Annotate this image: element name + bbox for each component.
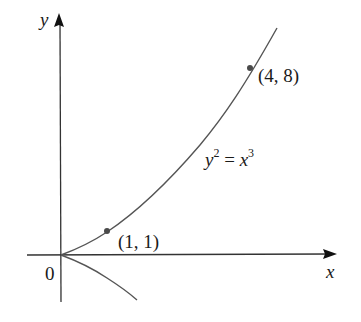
point-1-1 — [104, 228, 110, 234]
point-4-8-label: (4, 8) — [258, 66, 299, 85]
equation-label: y2 = x3 — [205, 150, 254, 169]
curve-upper-branch — [61, 28, 277, 255]
point-1-1-label: (1, 1) — [118, 232, 159, 251]
x-axis-arrow-icon — [323, 249, 337, 259]
x-axis — [27, 254, 330, 255]
x-axis-label: x — [326, 262, 334, 281]
eq-rhs: x — [240, 149, 248, 170]
eq-equals: = — [219, 149, 239, 170]
eq-rhs-exp: 3 — [248, 146, 254, 160]
eq-lhs-exp: 2 — [213, 146, 219, 160]
origin-label: 0 — [45, 264, 55, 283]
y-axis-label: y — [40, 10, 48, 29]
point-4-8 — [247, 65, 253, 71]
curve-lower-branch — [61, 255, 137, 300]
y-axis-arrow-icon — [54, 13, 64, 27]
y-axis — [60, 22, 61, 302]
